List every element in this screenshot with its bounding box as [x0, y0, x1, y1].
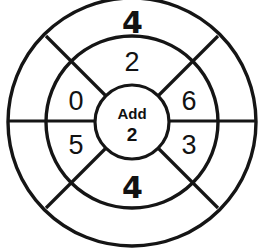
number-wheel-worksheet: Add 2 2 0 6 5 3 4 4 — [0, 0, 264, 250]
hub-operand-value: 2 — [127, 124, 138, 145]
hub-circle — [95, 85, 169, 159]
answer-cell-top[interactable]: 4 — [122, 5, 142, 40]
input-cell-upper-left: 0 — [68, 86, 83, 116]
input-cell-upper-right: 6 — [181, 86, 196, 116]
number-wheel-diagram: Add 2 2 0 6 5 3 4 4 — [0, 0, 264, 250]
input-cell-lower-left: 5 — [68, 130, 83, 160]
input-cell-bottom: 4 — [122, 170, 142, 205]
input-cell-lower-right: 3 — [181, 130, 196, 160]
input-cell-top: 2 — [124, 47, 139, 77]
hub-operation-label: Add — [117, 105, 146, 122]
